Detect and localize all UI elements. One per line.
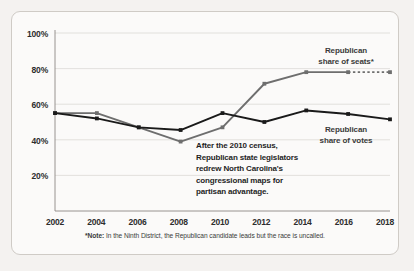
annotation-line-1: After the 2010 census, <box>196 140 332 152</box>
xtick-label-2002: 2002 <box>35 217 75 227</box>
footnote-text: In the Ninth District, the Republican ca… <box>104 232 325 239</box>
legend-seats-line1: Republican <box>300 46 392 57</box>
legend-seats-line2: share of seats* <box>300 57 392 68</box>
xtick-label-2016: 2016 <box>324 217 364 227</box>
census-annotation: After the 2010 census, Republican state … <box>196 140 332 198</box>
chart-footnote: *Note: In the Ninth District, the Republ… <box>11 232 399 239</box>
ytick-label-20: 20% <box>18 171 48 181</box>
ytick-label-40: 40% <box>18 136 48 146</box>
annotation-line-2: Republican state legislators <box>196 152 332 164</box>
chart-figure: 100% 80% 60% 40% 20% 2002 2004 2006 2008… <box>0 0 414 271</box>
annotation-line-4: congressional maps for <box>196 175 332 187</box>
legend-seats-label: Republican share of seats* <box>300 46 392 67</box>
xtick-label-2012: 2012 <box>241 217 281 227</box>
xtick-label-2010: 2010 <box>200 217 240 227</box>
legend-votes-line1: Republican <box>300 125 392 136</box>
xtick-label-2004: 2004 <box>76 217 116 227</box>
xtick-label-2018: 2018 <box>365 217 405 227</box>
ytick-label-60: 60% <box>18 100 48 110</box>
ytick-label-80: 80% <box>18 65 48 75</box>
xtick-label-2006: 2006 <box>118 217 158 227</box>
ytick-label-100: 100% <box>18 29 48 39</box>
annotation-line-3: redrew North Carolina's <box>196 163 332 175</box>
xtick-label-2008: 2008 <box>159 217 199 227</box>
annotation-line-5: partisan advantage. <box>196 186 332 198</box>
xtick-label-2014: 2014 <box>283 217 323 227</box>
footnote-marker: *Note: <box>85 232 104 239</box>
